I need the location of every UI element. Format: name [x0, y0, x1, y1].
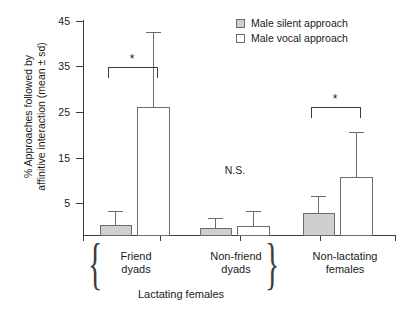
legend: Male silent approach Male vocal approach: [236, 16, 348, 46]
category-label-nonlactating-line1: Non-lactating: [290, 250, 400, 263]
y-tick-25: [76, 112, 83, 113]
legend-swatch-vocal-icon: [236, 34, 245, 43]
y-tick-35: [76, 66, 83, 67]
significance-bracket-friend: [108, 67, 158, 78]
significance-bracket-nonlactating: [311, 107, 361, 118]
legend-swatch-silent-icon: [236, 19, 245, 28]
y-tick-5: [76, 203, 83, 204]
group-brace-right: }: [265, 236, 279, 293]
y-tick-label-15: 15: [0, 153, 70, 163]
significance-star-nonlactating: *: [311, 94, 359, 104]
not-significant-label-nonfriend: N.S.: [186, 165, 284, 176]
legend-item-male-silent-approach: Male silent approach: [236, 16, 348, 31]
legend-item-male-vocal-approach: Male vocal approach: [236, 31, 348, 46]
errorbar-nonlactating-vocal-cap: [349, 132, 364, 133]
y-axis-line: [83, 20, 84, 236]
group-brace-left: {: [88, 236, 102, 293]
group-label-lactating-females: Lactating females: [86, 288, 276, 301]
errorbar-nonfriend-vocal-stem: [253, 211, 254, 227]
y-tick-label-5: 5: [0, 198, 70, 208]
x-tick-2: [240, 236, 241, 241]
legend-label-vocal: Male vocal approach: [251, 33, 348, 44]
bar-nonlactating-silent: [303, 213, 335, 236]
errorbar-friend-silent-stem: [115, 211, 116, 226]
errorbar-friend-silent-cap: [108, 211, 123, 212]
bar-friend-silent: [100, 225, 132, 236]
category-label-nonlactating-females: Non-lactating females: [290, 250, 400, 276]
x-tick-4: [395, 236, 396, 241]
x-tick-3: [320, 236, 321, 241]
errorbar-nonfriend-silent-stem: [215, 218, 216, 229]
category-label-nonlactating-line2: females: [290, 263, 400, 276]
bar-nonfriend-silent: [200, 228, 232, 236]
legend-label-silent: Male silent approach: [251, 18, 348, 29]
y-tick-45: [76, 21, 83, 22]
errorbar-nonfriend-silent-cap: [208, 218, 223, 219]
errorbar-nonlactating-vocal-stem: [356, 132, 357, 178]
bar-friend-vocal: [137, 107, 170, 236]
figure-bar-chart: % Approaches followed by affinitive inte…: [0, 0, 416, 309]
y-tick-label-45: 45: [0, 16, 70, 26]
significance-star-friend: *: [108, 54, 156, 64]
errorbar-nonfriend-vocal-cap: [246, 211, 261, 212]
y-tick-label-25: 25: [0, 107, 70, 117]
bar-nonlactating-vocal: [340, 177, 373, 236]
errorbar-nonlactating-silent-cap: [311, 196, 326, 197]
y-tick-15: [76, 158, 83, 159]
y-tick-label-35: 35: [0, 61, 70, 71]
errorbar-nonlactating-silent-stem: [318, 196, 319, 214]
x-tick-0: [83, 236, 84, 241]
x-tick-1: [160, 236, 161, 241]
errorbar-friend-vocal-cap: [146, 32, 161, 33]
